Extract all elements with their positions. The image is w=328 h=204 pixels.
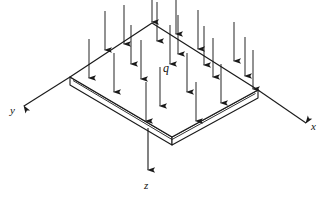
figure-container: x y z q	[0, 0, 328, 204]
y-axis-label: y	[9, 104, 15, 116]
load-label-q: q	[163, 61, 169, 75]
plate-load-diagram: x y z q	[0, 0, 328, 204]
z-axis-label: z	[143, 179, 149, 191]
x-axis-label: x	[310, 120, 316, 132]
